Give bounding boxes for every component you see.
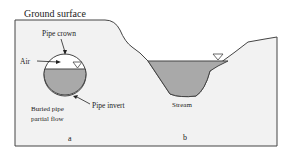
pipe-vs-stream-diagram: Ground surface Pipe crown Air Buried pip… [0,0,293,155]
panel-a-label: a [68,134,72,143]
air-label: Air [20,57,31,66]
pipe-crown-label: Pipe crown [42,29,76,38]
stream-label: Stream [172,101,192,109]
buried-pipe-label: Buried pipe [31,105,64,113]
panel-b-label: b [183,133,187,142]
partial-flow-label: partial flow [31,115,64,123]
ground-surface-label: Ground surface [24,8,86,19]
pipe-invert-label: Pipe invert [92,101,126,110]
stream-water-level-icon [213,54,223,60]
